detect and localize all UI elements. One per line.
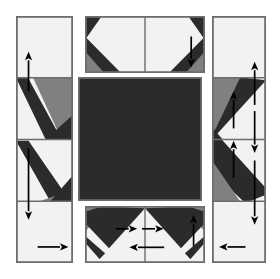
center-square-fill xyxy=(78,77,202,201)
top-side-strip xyxy=(85,16,205,73)
bottom-side-strip xyxy=(85,206,205,263)
center-square xyxy=(78,77,202,201)
right-side-strip xyxy=(212,16,266,263)
left-side-strip xyxy=(16,16,73,263)
quilt-diagram-canvas xyxy=(0,0,280,279)
